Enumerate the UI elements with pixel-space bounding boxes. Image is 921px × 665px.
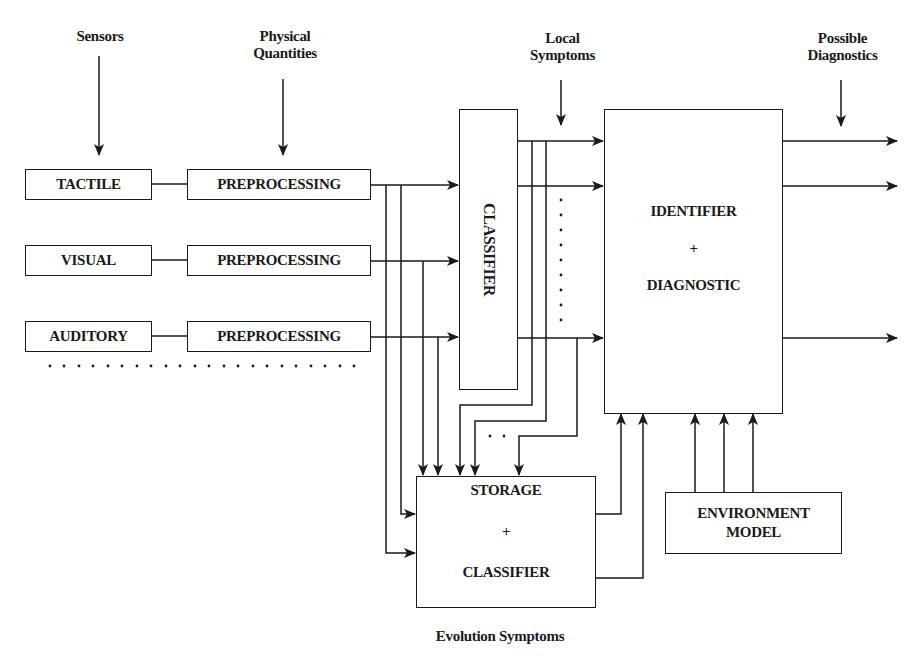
sensor-box-auditory: AUDITORY <box>25 321 152 352</box>
sensor-box-visual: VISUAL <box>25 245 152 276</box>
possible-diagnostics-line-1: Possible <box>785 30 900 47</box>
physical-quantities-line-1: Physical <box>230 28 340 45</box>
preprocessing-label: PREPROCESSING <box>217 176 341 193</box>
evolution-classifier-label: CLASSIFIER <box>462 564 549 581</box>
identifier-diagnostic-box: IDENTIFIER + DIAGNOSTIC <box>604 109 783 414</box>
local-symptoms-line-1: Local <box>510 30 615 47</box>
preprocessing-label: PREPROCESSING <box>217 328 341 345</box>
sensors-label: Sensors <box>60 28 140 45</box>
sensor-box-tactile: TACTILE <box>25 169 152 200</box>
model-label: MODEL <box>726 523 781 542</box>
physical-quantities-label: Physical Quantities <box>230 28 340 62</box>
preprocessing-box-3: PREPROCESSING <box>187 321 371 352</box>
identifier-label: IDENTIFIER <box>650 203 736 220</box>
sensor-label: VISUAL <box>61 252 116 269</box>
evolution-symptoms-label: Evolution Symptoms <box>400 628 600 645</box>
sensor-label: AUDITORY <box>49 328 127 345</box>
classifier-label: CLASSIFIER <box>480 203 498 296</box>
possible-diagnostics-label: Possible Diagnostics <box>785 30 900 64</box>
environment-label: ENVIRONMENT <box>697 504 810 523</box>
physical-quantities-line-2: Quantities <box>230 45 340 62</box>
plus-sign: + <box>502 523 510 540</box>
classifier-box: CLASSIFIER <box>459 109 518 390</box>
local-symptoms-line-2: Symptoms <box>510 47 615 64</box>
preprocessing-box-2: PREPROCESSING <box>187 245 371 276</box>
preprocessing-box-1: PREPROCESSING <box>187 169 371 200</box>
plus-sign: + <box>689 240 697 257</box>
preprocessing-label: PREPROCESSING <box>217 252 341 269</box>
sensor-label: TACTILE <box>56 176 120 193</box>
storage-label: STORAGE <box>471 482 542 499</box>
local-symptoms-label: Local Symptoms <box>510 30 615 64</box>
storage-classifier-box: STORAGE + CLASSIFIER <box>416 476 596 608</box>
possible-diagnostics-line-2: Diagnostics <box>785 47 900 64</box>
diagnostic-label: DIAGNOSTIC <box>647 277 741 294</box>
environment-model-box: ENVIRONMENT MODEL <box>665 492 842 554</box>
